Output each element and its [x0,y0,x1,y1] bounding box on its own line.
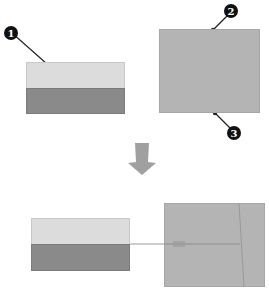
result-guide-overlay [0,0,269,289]
